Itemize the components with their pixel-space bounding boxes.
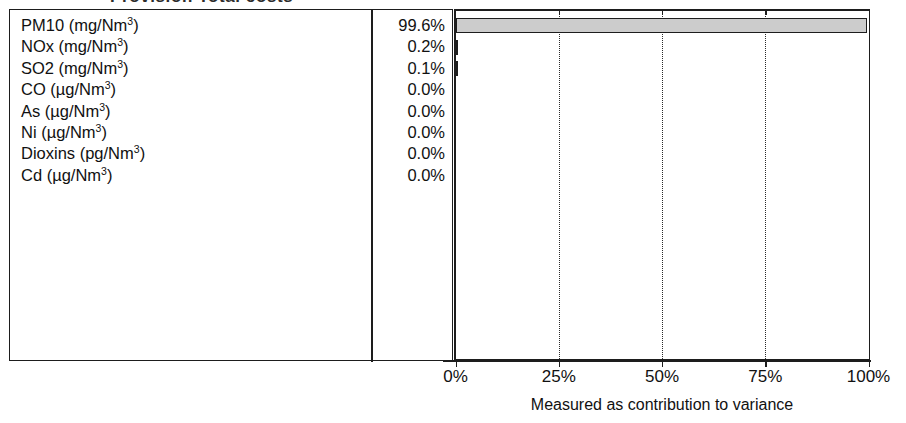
bar-pm10 <box>456 18 867 33</box>
x-tick-label-25: 25% <box>542 367 576 387</box>
chart-title-clipped-region: Provision Total costs <box>0 0 906 7</box>
row-label-co: CO (µg/Nm3) <box>21 79 116 100</box>
bar-chart-plot-area <box>454 9 870 361</box>
row-label-pm10: PM10 (mg/Nm3) <box>21 15 139 36</box>
top-tick-75 <box>765 9 766 15</box>
row-label-so2: SO2 (mg/Nm3) <box>21 58 129 79</box>
x-tick-label-50: 50% <box>645 367 679 387</box>
row-label-nox: NOx (mg/Nm3) <box>21 36 129 57</box>
table-column-divider <box>371 10 373 362</box>
unit-exponent: 3 <box>117 36 123 48</box>
table-row: NOx (mg/Nm3)0.2% <box>10 36 454 57</box>
row-value-pm10: 99.6% <box>260 15 445 36</box>
row-value-nox: 0.2% <box>260 36 445 57</box>
row-label-cd: Cd (µg/Nm3) <box>21 165 112 186</box>
row-value-as: 0.0% <box>260 101 445 122</box>
top-tick-50 <box>662 9 663 15</box>
x-tick-label-100: 100% <box>847 367 890 387</box>
table-row: Cd (µg/Nm3)0.0% <box>10 165 454 186</box>
row-label-as: As (µg/Nm3) <box>21 101 111 122</box>
unit-exponent: 3 <box>134 143 140 155</box>
unit-exponent: 3 <box>127 15 133 27</box>
bar-so2 <box>456 61 458 76</box>
gridline-75 <box>765 11 766 361</box>
unit-exponent: 3 <box>101 164 107 176</box>
row-value-co: 0.0% <box>260 79 445 100</box>
table-row: Dioxins (pg/Nm3)0.0% <box>10 143 454 164</box>
row-label-ni: Ni (µg/Nm3) <box>21 122 107 143</box>
table-row: As (µg/Nm3)0.0% <box>10 101 454 122</box>
chart-title: Provision Total costs <box>110 0 293 7</box>
top-tick-25 <box>559 9 560 15</box>
x-tick-label-0: 0% <box>443 367 468 387</box>
unit-exponent: 3 <box>99 100 105 112</box>
row-value-ni: 0.0% <box>260 122 445 143</box>
x-tick-label-75: 75% <box>748 367 782 387</box>
unit-exponent: 3 <box>105 79 111 91</box>
bar-nox <box>456 40 458 55</box>
plot-border-right <box>869 9 871 361</box>
table-row: Ni (µg/Nm3)0.0% <box>10 122 454 143</box>
row-value-so2: 0.1% <box>260 58 445 79</box>
x-axis-line <box>443 360 871 362</box>
row-value-dioxins: 0.0% <box>260 143 445 164</box>
row-label-dioxins: Dioxins (pg/Nm3) <box>21 143 145 164</box>
row-value-cd: 0.0% <box>260 165 445 186</box>
table-row: PM10 (mg/Nm3)99.6% <box>10 15 454 36</box>
table-row: SO2 (mg/Nm3)0.1% <box>10 58 454 79</box>
unit-exponent: 3 <box>117 57 123 69</box>
category-value-table: PM10 (mg/Nm3)99.6%NOx (mg/Nm3)0.2%SO2 (m… <box>9 9 453 361</box>
x-axis-caption: Measured as contribution to variance <box>454 396 870 414</box>
gridline-50 <box>662 11 663 361</box>
gridline-25 <box>559 11 560 361</box>
unit-exponent: 3 <box>96 121 102 133</box>
table-row: CO (µg/Nm3)0.0% <box>10 79 454 100</box>
table-rows: PM10 (mg/Nm3)99.6%NOx (mg/Nm3)0.2%SO2 (m… <box>10 15 454 186</box>
